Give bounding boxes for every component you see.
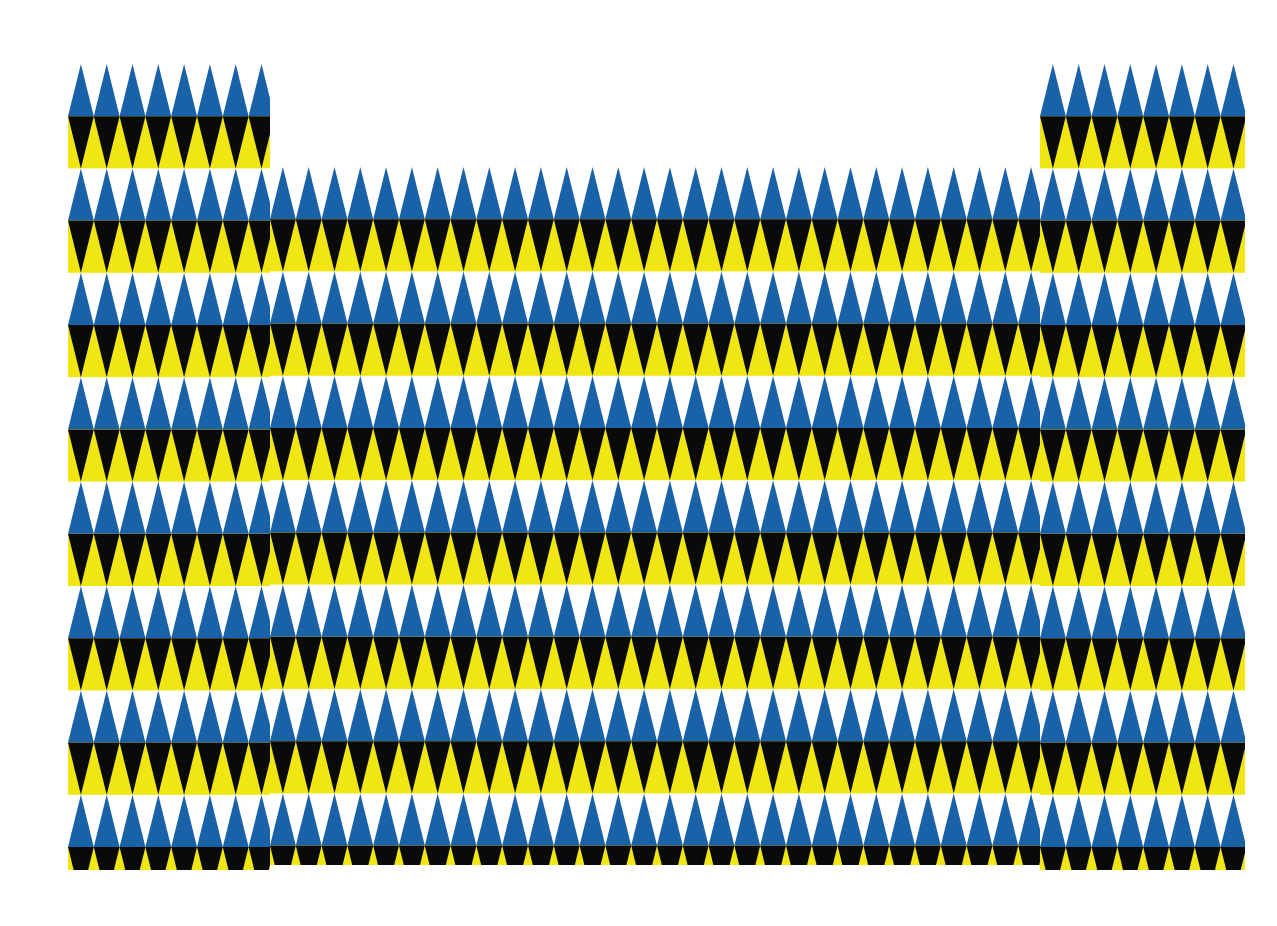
left-column-block — [68, 64, 270, 870]
center-field-block-pattern — [270, 167, 1040, 865]
artboard — [0, 0, 1277, 926]
left-column-block-pattern — [68, 64, 270, 870]
right-column-block — [1040, 64, 1245, 870]
center-field-block — [270, 167, 1040, 865]
right-column-block-pattern — [1040, 64, 1245, 870]
